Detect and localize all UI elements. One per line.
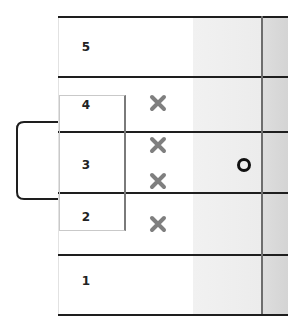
row-divider bbox=[58, 16, 288, 18]
row-label-3: 3 bbox=[76, 158, 96, 172]
circle-mark-icon bbox=[237, 158, 251, 172]
column-divider bbox=[261, 16, 263, 314]
x-mark-icon bbox=[148, 93, 168, 113]
row-label-2: 2 bbox=[76, 210, 96, 224]
row-label-5: 5 bbox=[76, 40, 96, 54]
x-mark-icon bbox=[148, 135, 168, 155]
row-divider bbox=[58, 76, 288, 78]
row-divider bbox=[58, 254, 288, 256]
x-mark-icon bbox=[148, 214, 168, 234]
x-mark-icon bbox=[148, 171, 168, 191]
shaded-column-right bbox=[261, 16, 288, 314]
row-label-4: 4 bbox=[76, 98, 96, 112]
row-divider bbox=[58, 314, 288, 316]
row-label-1: 1 bbox=[76, 274, 96, 288]
group-bracket bbox=[12, 118, 62, 206]
